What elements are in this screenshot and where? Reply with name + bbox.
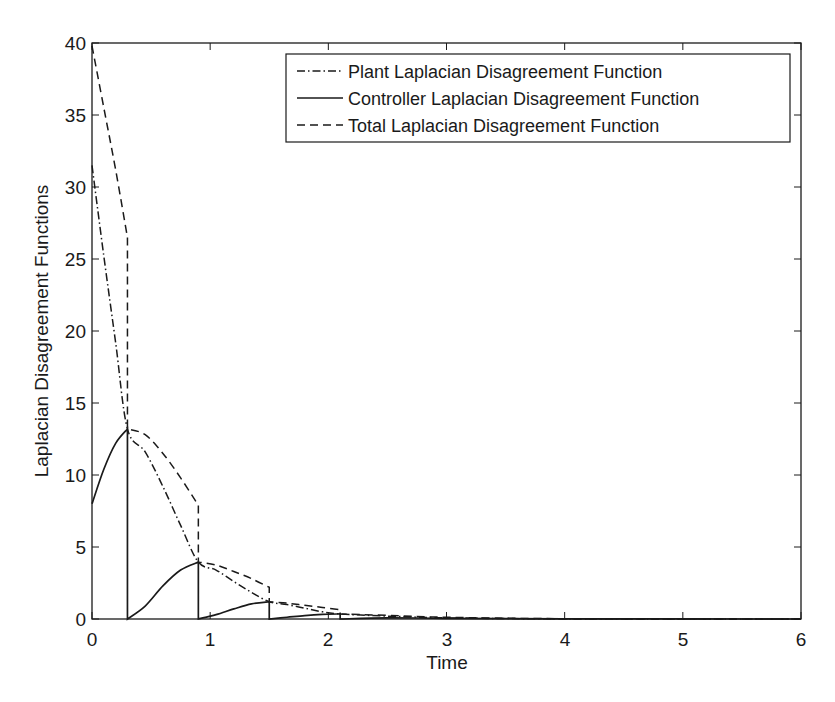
x-tick-label: 3 — [442, 629, 453, 650]
y-tick-label: 0 — [75, 609, 86, 630]
y-axis-label: Laplacian Disagreement Functions — [31, 185, 52, 478]
y-tick-label: 20 — [65, 321, 86, 342]
y-tick-label: 30 — [65, 177, 86, 198]
y-tick-label: 25 — [65, 249, 86, 270]
chart-canvas: 0 1 2 3 4 5 6 0 5 10 15 20 25 30 35 40 T… — [0, 0, 835, 702]
x-tick-label: 0 — [87, 629, 98, 650]
legend-plant-label: Plant Laplacian Disagreement Function — [348, 62, 662, 82]
y-tick-label: 40 — [65, 33, 86, 54]
x-axis-label: Time — [426, 652, 468, 673]
x-tick-label: 5 — [678, 629, 689, 650]
x-tick-label: 4 — [560, 629, 571, 650]
x-tick-label: 2 — [323, 629, 334, 650]
x-tick-label: 6 — [796, 629, 807, 650]
y-tick-label: 5 — [75, 537, 86, 558]
legend-total-label: Total Laplacian Disagreement Function — [348, 116, 659, 136]
legend-controller-label: Controller Laplacian Disagreement Functi… — [348, 89, 699, 109]
legend: Plant Laplacian Disagreement Function Co… — [286, 54, 790, 142]
y-tick-label: 15 — [65, 393, 86, 414]
x-tick-label: 1 — [205, 629, 216, 650]
y-tick-label: 35 — [65, 105, 86, 126]
y-tick-label: 10 — [65, 465, 86, 486]
